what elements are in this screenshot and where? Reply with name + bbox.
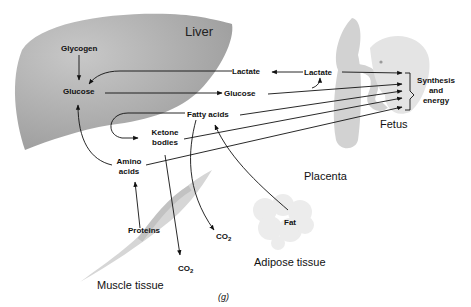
glycogen-node: Glycogen	[61, 44, 97, 53]
placenta-shape	[334, 18, 361, 148]
panel-label: (g)	[218, 292, 229, 302]
synthesis-line-1: Synthesis	[417, 76, 455, 85]
placenta-label: Placenta	[304, 170, 347, 182]
synthesis-energy-node: Synthesis and energy	[412, 76, 460, 106]
co2-right-node: CO2	[216, 232, 231, 242]
ketone-line-2: bodies	[152, 138, 178, 147]
proteins-node: Proteins	[128, 226, 160, 235]
co2-text: CO	[216, 232, 228, 241]
co2-subscript: 2	[190, 268, 193, 274]
muscle-tissue-label: Muscle tissue	[97, 279, 164, 291]
ketone-line-1: Ketone	[151, 128, 178, 137]
ketone-bodies-node: Ketone bodies	[147, 128, 183, 148]
co2-lower-node: CO2	[178, 264, 193, 274]
co2-text: CO	[178, 264, 190, 273]
liver-label: Liver	[185, 24, 213, 39]
fatty-acids-node: Fatty acids	[187, 110, 229, 119]
lactate-placenta-node: Lactate	[304, 68, 332, 77]
glucose-node: Glucose	[224, 89, 256, 98]
glucose-liver-node: Glucose	[63, 87, 95, 96]
synthesis-line-3: energy	[423, 96, 449, 105]
co2-subscript: 2	[228, 236, 231, 242]
amino-acids-node: Amino acids	[112, 157, 146, 177]
fetus-label: Fetus	[380, 118, 408, 130]
lactate-node: Lactate	[232, 67, 260, 76]
amino-line-1: Amino	[117, 157, 142, 166]
amino-line-2: acids	[119, 167, 139, 176]
synthesis-line-2: and	[429, 86, 443, 95]
adipose-tissue-label: Adipose tissue	[254, 256, 326, 268]
fat-node: Fat	[284, 218, 296, 227]
metabolism-diagram: Liver Placenta Fetus Muscle tissue Adipo…	[0, 0, 471, 307]
